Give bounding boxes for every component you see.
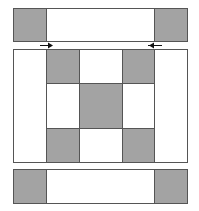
grid-cell-r3c3: [122, 128, 155, 163]
grid-cell-r2c3: [122, 83, 155, 129]
grid-cell-r3c2: [79, 128, 123, 163]
arrow-right-icon: [40, 45, 50, 46]
center-left-panel: [13, 49, 47, 163]
bottom-strip-right-square: [154, 169, 188, 204]
arrow-left-icon: [148, 45, 158, 46]
bottom-strip-center-rect: [46, 169, 155, 204]
grid-cell-r1c1: [46, 49, 80, 84]
center-right-panel: [154, 49, 188, 163]
grid-cell-r1c3: [122, 49, 155, 84]
bottom-strip-left-square: [13, 169, 47, 204]
grid-cell-r2c2-center: [79, 83, 123, 129]
grid-cell-r3c1: [46, 128, 80, 163]
top-strip-right-square: [154, 8, 188, 42]
grid-cell-r1c2: [79, 49, 123, 84]
grid-cell-r2c1: [46, 83, 80, 129]
top-strip-left-square: [13, 8, 47, 42]
top-strip-center-rect: [46, 8, 155, 42]
